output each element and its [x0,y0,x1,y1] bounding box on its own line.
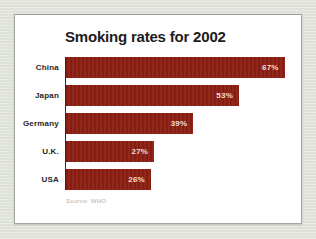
category-label: USA [15,169,65,190]
bar: 53% [66,85,239,106]
category-label: Germany [15,113,65,134]
source-note: Source: WHO [66,198,301,204]
bar-value-label: 67% [262,63,279,72]
chart-title: Smoking rates for 2002 [65,28,301,46]
bar-row: 26% [66,169,301,190]
bar-chart: ChinaJapanGermanyU.K.USA 67%53%39%27%26% [15,57,301,190]
category-label: China [15,57,65,78]
category-labels-column: ChinaJapanGermanyU.K.USA [15,57,65,190]
chart-card: Smoking rates for 2002 ChinaJapanGermany… [14,14,302,224]
category-label: U.K. [15,141,65,162]
bar-value-label: 26% [128,175,145,184]
bar-value-label: 39% [171,119,188,128]
bar-row: 39% [66,113,301,134]
bar: 26% [66,169,151,190]
category-label: Japan [15,85,65,106]
bar: 39% [66,113,193,134]
bar: 67% [66,57,285,78]
bar-row: 27% [66,141,301,162]
bar: 27% [66,141,154,162]
bars-plot-area: 67%53%39%27%26% [65,57,301,190]
bar-value-label: 27% [132,147,149,156]
bar-value-label: 53% [216,91,233,100]
bar-row: 67% [66,57,301,78]
bar-row: 53% [66,85,301,106]
